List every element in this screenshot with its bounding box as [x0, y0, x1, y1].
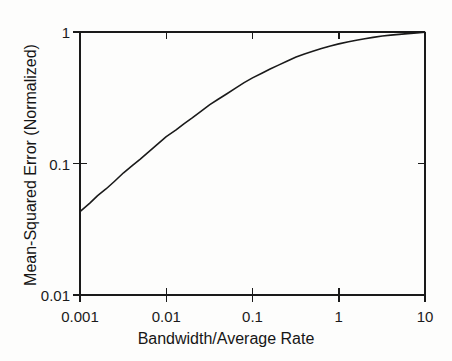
chart-figure: 0.0010.010.111010.10.01 Bandwidth/Averag… [0, 0, 452, 361]
y-tick-label-0: 1 [62, 24, 70, 41]
series-line-0 [80, 32, 425, 211]
x-axis-title-text: Bandwidth/Average Rate [138, 330, 315, 347]
x-tick-label-2: 0.1 [242, 308, 263, 325]
data-series-group [80, 32, 425, 211]
log-log-line-chart [0, 0, 452, 361]
x-tick-label-1: 0.01 [152, 308, 181, 325]
y-tick-label-1: 0.1 [49, 155, 70, 172]
x-tick-label-0: 0.001 [61, 308, 99, 325]
x-axis-title: Bandwidth/Average Rate [0, 330, 452, 348]
x-tick-label-3: 1 [335, 308, 343, 325]
axis-ticks [73, 32, 425, 302]
plot-frame [80, 32, 425, 295]
y-tick-label-2: 0.01 [41, 287, 70, 304]
x-tick-label-4: 10 [417, 308, 434, 325]
